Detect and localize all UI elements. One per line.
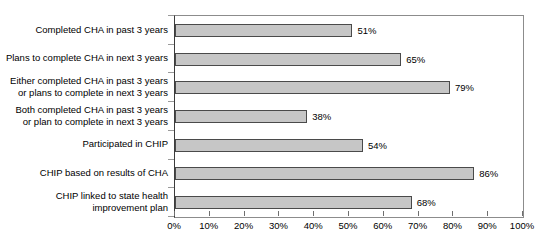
category-tick [168, 44, 174, 45]
x-axis-tick-label: 40% [304, 220, 323, 232]
category-tick [168, 216, 174, 217]
x-axis-tick-label: 90% [478, 220, 497, 232]
bar [175, 139, 363, 152]
category-label: CHIP linked to state health improvement … [0, 190, 168, 213]
x-axis-tick-label: 70% [408, 220, 427, 232]
bar-value-label: 51% [357, 24, 376, 37]
x-axis-tick-label: 0% [167, 220, 181, 232]
x-axis-tick-label: 100% [510, 220, 534, 232]
x-axis-tick [209, 211, 210, 216]
x-axis-tick [174, 211, 175, 216]
category-tick [168, 159, 174, 160]
category-tick [168, 72, 174, 73]
x-axis-tick [487, 211, 488, 216]
bar [175, 24, 352, 37]
x-axis-tick-label: 50% [338, 220, 357, 232]
category-tick [168, 15, 174, 16]
bar-value-label: 86% [479, 167, 498, 180]
category-axis-labels: Completed CHA in past 3 yearsPlans to co… [0, 15, 168, 216]
x-axis-tick [348, 211, 349, 216]
category-tick [168, 101, 174, 102]
bar [175, 196, 412, 209]
x-axis-tick [383, 211, 384, 216]
category-tick [168, 130, 174, 131]
category-tick [168, 187, 174, 188]
x-axis-tick-label: 80% [443, 220, 462, 232]
category-label: Both completed CHA in past 3 years or pl… [0, 104, 168, 127]
bar-value-label: 54% [368, 139, 387, 152]
x-axis-tick [418, 211, 419, 216]
bar-value-label: 65% [406, 53, 425, 66]
x-axis-tick [522, 211, 523, 216]
bar-value-label: 79% [455, 81, 474, 94]
bar-value-label: 38% [312, 110, 331, 123]
category-label: Completed CHA in past 3 years [0, 24, 168, 36]
x-axis-tick-label: 60% [373, 220, 392, 232]
category-label: Either completed CHA in past 3 years or … [0, 75, 168, 98]
bar [175, 110, 307, 123]
category-label: Plans to complete CHA in next 3 years [0, 52, 168, 64]
bars-layer: 51%65%79%38%54%86%68% [175, 16, 523, 217]
x-axis-tick-label: 30% [269, 220, 288, 232]
x-axis-tick [278, 211, 279, 216]
x-axis-tick-label: 20% [234, 220, 253, 232]
bar-chart: Completed CHA in past 3 yearsPlans to co… [0, 0, 544, 252]
x-axis-tick [313, 211, 314, 216]
category-label: Participated in CHIP [0, 138, 168, 150]
x-axis-tick [244, 211, 245, 216]
x-axis-tick-label: 10% [199, 220, 218, 232]
category-label: CHIP based on results of CHA [0, 167, 168, 179]
bar [175, 53, 401, 66]
bar [175, 167, 474, 180]
x-axis-tick [452, 211, 453, 216]
bar-value-label: 68% [417, 196, 436, 209]
bar [175, 81, 450, 94]
